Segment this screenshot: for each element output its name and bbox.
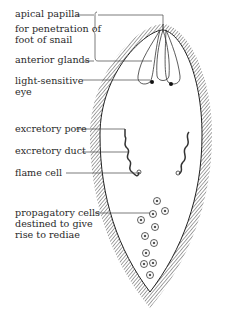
label-excretory-duct: excretory duct	[15, 145, 86, 157]
label-apical-papilla: apical papilla	[15, 8, 80, 20]
label-propagatory-line1: propagatory cells	[15, 207, 100, 219]
label-penetration-line2: foot of snail	[15, 34, 72, 46]
eye-left-icon	[150, 80, 154, 84]
label-anterior-glands: anterior glands	[15, 54, 90, 66]
label-propagatory-line2: destined to give	[15, 218, 93, 230]
label-eye-line2: eye	[15, 86, 32, 98]
label-excretory-pore: excretory pore	[15, 123, 87, 135]
label-flame-cell: flame cell	[15, 167, 62, 179]
eye-right-icon	[169, 82, 173, 86]
label-eye-line1: light-sensitive	[15, 75, 83, 87]
label-propagatory-line3: rise to rediae	[15, 229, 80, 241]
miracidium-diagram	[0, 0, 226, 315]
label-penetration-line1: for penetration of	[15, 23, 101, 35]
